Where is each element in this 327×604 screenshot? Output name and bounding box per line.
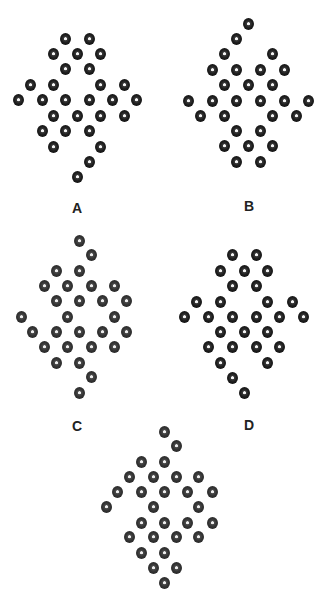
dot	[37, 94, 48, 106]
dot	[48, 141, 59, 153]
dot	[231, 125, 242, 137]
dot	[95, 141, 106, 153]
dot	[251, 280, 262, 292]
dot	[207, 517, 218, 529]
dot	[219, 48, 230, 60]
dot	[219, 79, 230, 91]
dot	[74, 357, 85, 369]
dot	[13, 94, 24, 106]
dot	[227, 341, 238, 353]
dot	[193, 471, 204, 483]
dot	[72, 171, 83, 183]
dot	[84, 125, 95, 137]
dot	[84, 156, 95, 168]
dot	[243, 18, 254, 30]
figure-label-d: D	[244, 418, 254, 432]
dot	[84, 94, 95, 106]
dot	[148, 562, 159, 574]
dot	[274, 341, 285, 353]
dot	[207, 95, 218, 107]
dot	[159, 517, 170, 529]
figure-c: C	[0, 0, 327, 604]
dot	[243, 140, 254, 152]
dot	[215, 296, 226, 308]
dot	[124, 531, 135, 543]
dot	[101, 501, 112, 513]
dot	[159, 426, 170, 438]
dot	[255, 95, 266, 107]
dot	[48, 110, 59, 122]
dot	[109, 341, 120, 353]
dot	[303, 95, 314, 107]
dot	[287, 296, 298, 308]
dot	[121, 326, 132, 338]
dot	[193, 501, 204, 513]
dot	[251, 341, 262, 353]
dot	[74, 265, 85, 277]
dot	[95, 79, 106, 91]
dot	[27, 326, 38, 338]
figure-d: D	[0, 0, 327, 604]
dot	[84, 63, 95, 75]
dot	[95, 48, 106, 60]
figure-e	[0, 0, 327, 604]
dot	[195, 110, 206, 122]
dot	[227, 249, 238, 261]
dot	[48, 79, 59, 91]
dot	[182, 517, 193, 529]
dot	[267, 79, 278, 91]
dot	[227, 372, 238, 384]
dot	[25, 79, 36, 91]
dot	[74, 295, 85, 307]
dot	[262, 296, 273, 308]
figure-label-a: A	[72, 201, 82, 215]
dot	[203, 311, 214, 323]
dot	[148, 471, 159, 483]
dot	[182, 486, 193, 498]
dot	[298, 311, 309, 323]
dot	[148, 531, 159, 543]
dot	[159, 577, 170, 589]
dot	[109, 280, 120, 292]
dot	[74, 387, 85, 399]
dot	[124, 471, 135, 483]
dot	[279, 95, 290, 107]
dot	[86, 280, 97, 292]
figure-label-c: C	[72, 419, 82, 433]
dot	[60, 94, 71, 106]
dot	[255, 156, 266, 168]
dot	[203, 341, 214, 353]
dot	[51, 265, 62, 277]
dot	[159, 456, 170, 468]
dot	[193, 531, 204, 543]
dot	[227, 311, 238, 323]
dot	[51, 295, 62, 307]
figure-a: A	[0, 0, 327, 604]
dot	[291, 110, 302, 122]
dot	[215, 357, 226, 369]
dot	[136, 517, 147, 529]
dot	[227, 280, 238, 292]
dot	[72, 110, 83, 122]
dot	[97, 295, 108, 307]
dot	[207, 486, 218, 498]
dot	[39, 341, 50, 353]
dot	[62, 311, 73, 323]
dot	[97, 326, 108, 338]
dot	[60, 63, 71, 75]
dot	[109, 311, 120, 323]
dot	[72, 48, 83, 60]
dot	[267, 48, 278, 60]
dot	[62, 341, 73, 353]
dot	[262, 357, 273, 369]
dot	[251, 249, 262, 261]
dot	[262, 326, 273, 338]
dot	[16, 311, 27, 323]
dot	[86, 341, 97, 353]
dot	[86, 371, 97, 383]
dot	[60, 125, 71, 137]
dot	[62, 280, 73, 292]
figure-b: B	[0, 0, 327, 604]
dot	[255, 125, 266, 137]
dot	[159, 547, 170, 559]
